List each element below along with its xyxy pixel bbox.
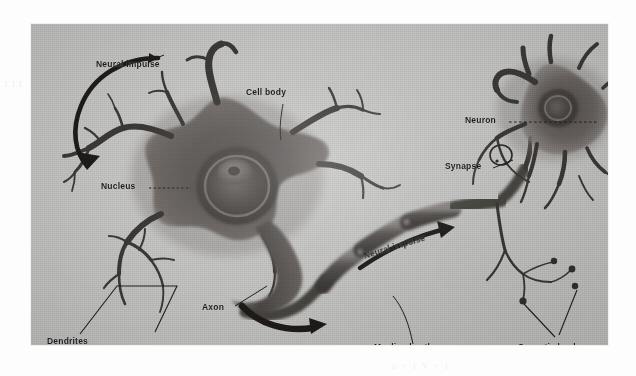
label-synaptic-knobs: Synaptic knobs — [518, 343, 584, 345]
synaptic-knobs-leader — [524, 290, 577, 337]
label-synapse: Synapse — [445, 162, 481, 171]
label-nucleus: Nucleus — [101, 182, 135, 191]
ghost-text-left: 1.1.1 — [4, 80, 23, 89]
label-cell-body: Cell body — [246, 88, 286, 97]
label-neural-impulse-top: Neural impulse — [96, 60, 160, 69]
label-myelin-sheath: Myelin sheath — [374, 343, 433, 345]
nucleus-membrane — [196, 147, 278, 225]
label-neuron: Neuron — [465, 116, 496, 125]
synaptic-terminal-branches — [487, 204, 571, 300]
label-axon: Axon — [202, 303, 224, 312]
leader-myelin — [393, 296, 413, 344]
axon-terminal-trunk — [455, 200, 501, 208]
leader-neural-impulse-top — [159, 55, 164, 57]
nucleolus-core — [228, 167, 240, 176]
label-dendrites: Dendrites — [47, 337, 88, 345]
synapse-dot — [495, 159, 498, 162]
scanned-page: 1.1.1 have the type and u ~ 1 V ~ 1 — [0, 0, 636, 376]
neuron-figure-plate: Neural impulse Cell body Nucleus Dendrit… — [31, 24, 608, 345]
axon-branch-up — [501, 168, 525, 200]
ghost-text-bottom: u ~ 1 V ~ 1 — [392, 362, 450, 371]
